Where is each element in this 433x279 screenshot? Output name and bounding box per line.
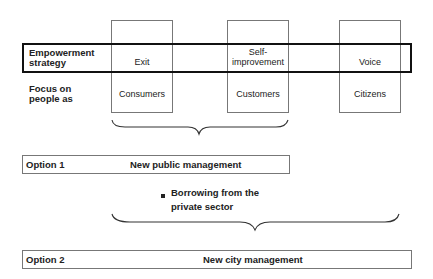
option1-title: New public management [130,160,280,170]
option1-label: Option 1 [26,160,86,170]
bullet-icon [161,194,165,198]
brace-option1 [112,120,288,134]
option2-title: New city management [203,255,353,265]
brace-graphics [0,0,433,279]
bullet-line2: private sector [171,202,311,212]
brace-option2 [112,214,399,230]
bullet-line1: Borrowing from the [171,188,311,198]
option2-label: Option 2 [26,255,86,265]
